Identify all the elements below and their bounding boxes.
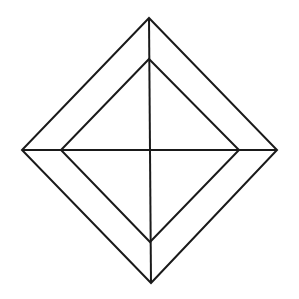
nested-diamond-diagram	[0, 0, 299, 299]
diagram-canvas	[0, 0, 299, 299]
